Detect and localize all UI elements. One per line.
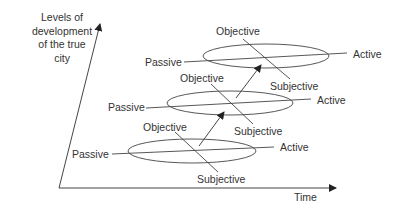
- progress-arrow-2-to-3: [236, 65, 261, 98]
- level-3-active-label: Active: [353, 48, 382, 60]
- level-3-ellipse: [203, 44, 329, 68]
- level-3-objective-subjective-line: [243, 39, 290, 79]
- level-2-objective-label: Objective: [180, 72, 224, 84]
- level-1-passive-label: Passive: [72, 148, 109, 160]
- level-2-subjective-label: Subjective: [234, 125, 282, 137]
- level-3-subjective-label: Subjective: [270, 80, 318, 92]
- progress-arrow-1-to-2: [199, 112, 224, 146]
- level-1-objective-label: Objective: [143, 121, 187, 133]
- level-1-passive-active-line: [112, 147, 274, 154]
- level-2-passive-label: Passive: [108, 101, 145, 113]
- level-3-passive-active-line: [184, 53, 347, 62]
- level-1-ellipse: [128, 139, 256, 163]
- y-axis-label: Levels of development of the true city: [30, 11, 94, 65]
- x-axis-label: Time: [294, 191, 317, 203]
- diagram-canvas: Levels of development of the true city T…: [0, 0, 401, 211]
- level-1-group: [112, 132, 274, 172]
- level-1-subjective-label: Subjective: [197, 173, 245, 185]
- level-2-active-label: Active: [317, 94, 346, 106]
- level-3-objective-label: Objective: [216, 25, 260, 37]
- level-1-active-label: Active: [280, 141, 309, 153]
- level-3-passive-label: Passive: [145, 56, 182, 68]
- level-1-objective-subjective-line: [175, 132, 218, 172]
